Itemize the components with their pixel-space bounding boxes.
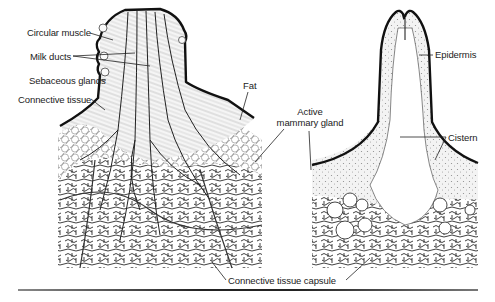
mammary-anatomy-diagram: Circular muscle Milk ducts Sebaceous gla… <box>0 0 495 302</box>
label-circular-muscle: Circular muscle <box>27 27 91 38</box>
anatomy-illustration <box>0 0 495 302</box>
label-sebaceous-glands: Sebaceous glands <box>29 75 106 86</box>
label-milk-ducts: Milk ducts <box>30 51 71 62</box>
label-cistern: Cistern <box>448 132 477 143</box>
label-active-mammary-gland-line2: mammary gland <box>274 117 346 128</box>
label-connective-tissue-capsule: Connective tissue capsule <box>228 275 336 286</box>
label-epidermis: Epidermis <box>435 49 476 60</box>
label-active-mammary-gland-line1: Active <box>274 106 346 117</box>
label-fat: Fat <box>243 80 256 91</box>
label-active-mammary-gland: Active mammary gland <box>274 106 346 128</box>
label-connective-tissue: Connective tissue <box>18 94 91 105</box>
left-udder-section <box>58 8 262 268</box>
bottom-divider <box>18 289 478 291</box>
